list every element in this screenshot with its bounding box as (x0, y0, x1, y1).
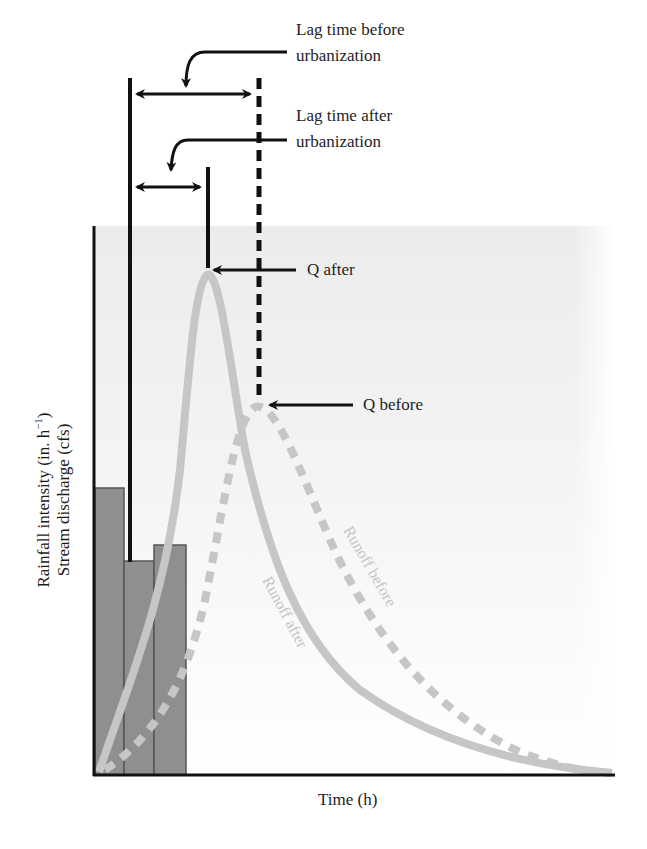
y-axis-label-line2: Stream discharge (cfs) (54, 290, 74, 710)
lag-before-label-line2: urbanization (296, 46, 381, 66)
y-axis-label-line1: Rainfall intensity (in. h−1) (28, 290, 54, 710)
x-axis-label: Time (h) (318, 790, 377, 810)
lag-after-callout (171, 140, 287, 170)
q-after-label: Q after (307, 260, 355, 280)
lag-before-callout (186, 52, 287, 86)
lag-after-label-line1: Lag time after (296, 106, 392, 126)
hydrograph-figure: Runoff after Runoff before Lag time befo… (0, 0, 647, 849)
y-axis-label: Rainfall intensity (in. h−1) Stream disc… (28, 290, 74, 710)
lag-after-label-line2: urbanization (296, 132, 381, 152)
hydrograph-svg: Runoff after Runoff before (0, 0, 647, 849)
q-before-label: Q before (363, 395, 423, 415)
lag-before-label-line1: Lag time before (296, 20, 405, 40)
